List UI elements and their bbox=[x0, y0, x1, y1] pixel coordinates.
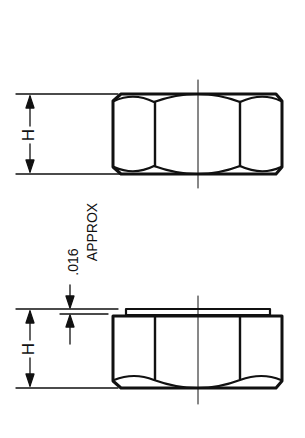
annotation-value: .016 bbox=[65, 248, 81, 275]
nut-drawing: H H .016 APPROX bbox=[0, 0, 305, 438]
annotation-note: APPROX bbox=[84, 202, 100, 261]
washer-face-hex-nut bbox=[16, 296, 282, 404]
dimension-label-bottom: H bbox=[19, 343, 38, 355]
dimension-label-top: H bbox=[19, 129, 38, 141]
plain-hex-nut bbox=[16, 80, 282, 188]
